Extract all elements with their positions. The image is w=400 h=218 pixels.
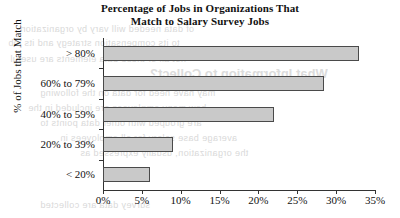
bar xyxy=(103,167,150,182)
bar xyxy=(103,46,359,61)
y-axis-tick-label: < 20% xyxy=(66,168,95,180)
x-axis-tick-label: 30% xyxy=(326,194,346,206)
x-axis-tick-label: 10% xyxy=(171,194,191,206)
y-axis-tick-label: 40% to 59% xyxy=(41,108,95,120)
y-axis-tick xyxy=(99,99,103,100)
plot-area xyxy=(103,38,375,190)
x-axis-tick-labels: 0%5%10%15%20%25%30%35% xyxy=(103,194,393,210)
bar xyxy=(103,107,274,122)
chart-title-line-1: Percentage of Jobs in Organizations That xyxy=(0,2,400,15)
bar xyxy=(103,76,324,91)
y-axis-tick xyxy=(99,160,103,161)
x-axis-tick-label: 25% xyxy=(287,194,307,206)
bar xyxy=(103,137,173,152)
y-axis-tick-label: 60% to 79% xyxy=(41,77,95,89)
y-axis-tick xyxy=(99,129,103,130)
x-axis-tick-label: 35% xyxy=(365,194,385,206)
y-axis-tick xyxy=(99,68,103,69)
x-axis-tick-label: 15% xyxy=(209,194,229,206)
chart-title-line-2: Match to Salary Survey Jobs xyxy=(0,15,400,28)
x-axis-tick-label: 20% xyxy=(248,194,268,206)
y-axis-tick-label: 20% to 39% xyxy=(41,138,95,150)
x-axis-tick-label: 5% xyxy=(135,194,150,206)
x-axis-tick-label: 0% xyxy=(96,194,111,206)
y-axis-tick-labels: > 80%60% to 79%40% to 59%20% to 39%< 20% xyxy=(0,38,99,190)
x-axis-line xyxy=(103,190,375,191)
y-axis-tick-label: > 80% xyxy=(66,47,95,59)
chart-title: Percentage of Jobs in Organizations That… xyxy=(0,2,400,27)
